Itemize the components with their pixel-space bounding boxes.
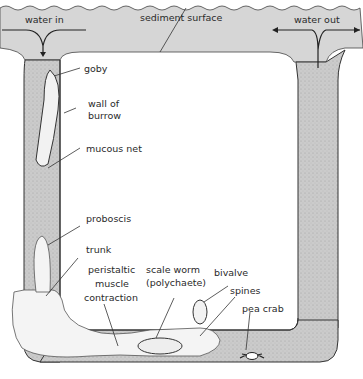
burrow-diagram: water in sediment surface water out goby…	[0, 0, 363, 379]
label-peristaltic-2: muscle	[95, 278, 129, 289]
label-water-in: water in	[25, 14, 64, 25]
bivalve	[193, 300, 207, 324]
label-spines: spines	[230, 285, 260, 296]
label-wall-of-burrow-2: burrow	[88, 110, 121, 121]
right-shaft	[296, 50, 345, 328]
label-scale-worm-1: scale worm	[146, 264, 200, 275]
label-bivalve: bivalve	[214, 267, 248, 278]
label-peristaltic-1: peristaltic	[88, 264, 135, 275]
label-peristaltic-3: contraction	[84, 292, 138, 303]
label-goby: goby	[84, 63, 108, 74]
label-wall-of-burrow-1: wall of	[88, 98, 120, 109]
label-mucous-net: mucous net	[86, 143, 142, 154]
label-scale-worm-2: (polychaete)	[146, 277, 206, 288]
label-water-out: water out	[294, 14, 340, 25]
scale-worm	[138, 338, 182, 354]
label-proboscis: proboscis	[86, 213, 131, 224]
label-sediment-surface: sediment surface	[140, 12, 223, 23]
label-pea-crab: pea crab	[242, 303, 284, 314]
label-trunk: trunk	[86, 244, 112, 255]
